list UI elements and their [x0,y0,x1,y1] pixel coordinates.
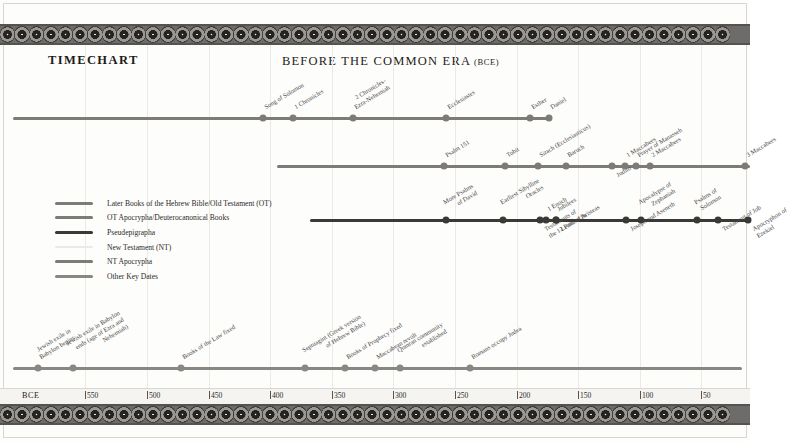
legend-item[interactable]: New Testament (NT) [55,240,271,255]
axis-tick-text: 500 [149,391,160,400]
timeline-event-marker[interactable] [290,115,297,122]
axis-tick-label: 400 [270,391,283,400]
legend: Later Books of the Hebrew Bible/Old Test… [55,196,271,284]
ornament-dot [29,406,45,423]
ornament-dot [321,406,337,423]
timeline-event-marker[interactable] [342,365,349,372]
legend-item[interactable]: Pseudepigrapha [55,225,271,240]
ornament-dot [0,406,15,423]
gridline [455,45,456,388]
timeline-event-marker[interactable] [742,163,749,170]
timeline-event-marker[interactable] [633,163,640,170]
axis-tick-label: 350 [332,391,345,400]
timeline-event-marker[interactable] [694,217,701,224]
ornament-dot [715,26,731,43]
ornament-dot [87,406,103,423]
ornament-dot [656,406,672,423]
ornament-dot [437,26,453,43]
timeline-event-label: Esther [530,96,548,111]
legend-swatch [55,231,93,235]
ornament-dot [481,26,497,43]
ornament-dot [116,26,132,43]
ornament-dot [306,26,322,43]
ornament-dot [394,26,410,43]
ornament-dot [160,406,176,423]
ornament-dot [452,26,468,43]
timeline-event-marker[interactable] [397,365,404,372]
timeline-event-marker[interactable] [527,115,534,122]
ornament-dot [145,406,161,423]
timeline-event-marker[interactable] [467,365,474,372]
ornament-dot [583,406,599,423]
legend-item[interactable]: Later Books of the Hebrew Bible/Old Test… [55,196,271,211]
timeline-event-marker[interactable] [622,163,629,170]
timeline-event-marker[interactable] [535,163,542,170]
legend-item[interactable]: OT Apocrypha/Deuterocanonical Books [55,211,271,226]
timeline-event-marker[interactable] [609,163,616,170]
axis-tick-mark [147,391,148,399]
ornament-dot [233,26,249,43]
ornament-dot [350,406,366,423]
timeline-event-marker[interactable] [715,217,722,224]
timeline-event-label: Ecclesiastes [446,88,477,111]
timeline-event-marker[interactable] [70,365,77,372]
ornament-dot [248,406,264,423]
ornament-dot [248,26,264,43]
ornament-dot [685,26,701,43]
ornament-dot [510,406,526,423]
timeline-event-marker[interactable] [302,365,309,372]
ornament-dot [379,26,395,43]
timeline-event-marker[interactable] [623,217,630,224]
timeline-event-marker[interactable] [178,365,185,372]
timeline-event-marker[interactable] [546,115,553,122]
ornament-dot [715,406,731,423]
axis-tick-text: 350 [334,391,345,400]
ornament-dot [481,406,497,423]
timeline-event-marker[interactable] [350,115,357,122]
timeline-event-marker[interactable] [553,217,560,224]
timeline-event-marker[interactable] [443,115,450,122]
timeline-event-marker[interactable] [638,217,645,224]
legend-item[interactable]: Other Key Dates [55,269,271,284]
timeline-event-label: Psalm 151 [444,138,471,159]
ornament-dot [685,406,701,423]
ornament-dot [321,26,337,43]
timeline-event-marker[interactable] [563,163,570,170]
legend-item[interactable]: NT Apocrypha [55,254,271,269]
ornament-dot [569,26,585,43]
timeline-event-marker[interactable] [502,163,509,170]
ornament-dot [423,406,439,423]
ornament-dot [627,26,643,43]
ornament-dot [218,26,234,43]
axis-tick-label: 500 [147,391,160,400]
timeline-event-marker[interactable] [537,217,544,224]
timeline-event-marker[interactable] [647,163,654,170]
axis-tick-text: 450 [211,391,222,400]
axis-tick-label: 150 [578,391,591,400]
axis-tick-label: 200 [517,391,530,400]
timeline-event-label: Jewish exile in Babylonends (age of Ezra… [65,309,130,361]
axis-tick-text: 300 [395,391,406,400]
ornament-dot [160,26,176,43]
timeline-event-marker[interactable] [441,163,448,170]
ornament-dot [452,406,468,423]
ornament-dot [189,26,205,43]
timeline-event-marker[interactable] [260,115,267,122]
ornament-dot [306,406,322,423]
ornament-dot [467,26,483,43]
timeline-event-marker[interactable] [443,217,450,224]
ornament-dot [627,406,643,423]
axis-tick-mark [393,391,394,399]
timeline-event-label: Earliest SibyllineOracles [499,177,545,213]
timeline-event-marker[interactable] [372,365,379,372]
axis-tick-text: 100 [642,391,653,400]
ornament-dot [131,26,147,43]
legend-label: Pseudepigrapha [107,228,155,237]
ornament-dot [14,26,30,43]
timeline-event-marker[interactable] [35,365,42,372]
timeline-event-marker[interactable] [500,217,507,224]
timeline-event-marker[interactable] [745,217,752,224]
axis-tick-mark [517,391,518,399]
timeline-event-label: Daniel [549,95,568,111]
ornament-dot [145,26,161,43]
